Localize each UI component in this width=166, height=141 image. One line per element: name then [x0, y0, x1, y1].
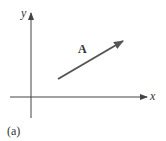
y-axis-label: y	[21, 6, 26, 21]
diagram-canvas	[0, 0, 166, 141]
vector-a-arrow	[58, 41, 123, 79]
x-axis-label: x	[150, 89, 155, 104]
figure-caption: (a)	[7, 124, 20, 139]
vector-label: A	[78, 42, 87, 57]
